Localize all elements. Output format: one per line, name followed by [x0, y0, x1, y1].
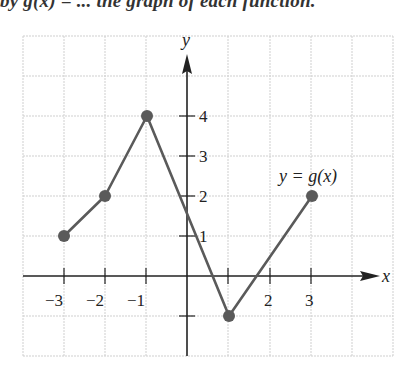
y-axis-arrow-icon — [182, 54, 192, 74]
point-m2-2 — [99, 190, 111, 202]
point-m3-1 — [58, 230, 70, 242]
x-tick-label: −3 — [45, 291, 63, 310]
function-graph: −3 −2 −1 2 3 1 2 3 4 x y y = g(x) — [0, 0, 414, 374]
point-1-m1 — [223, 310, 235, 322]
x-axis-label: x — [381, 266, 390, 286]
y-axis-label: y — [180, 30, 190, 50]
x-tick-label: −2 — [86, 291, 104, 310]
x-axis-arrow-icon — [360, 271, 380, 281]
y-tick-label: 2 — [199, 187, 208, 206]
point-m1-4 — [141, 110, 153, 122]
x-tick-label: 2 — [264, 291, 273, 310]
point-3-2 — [306, 190, 318, 202]
y-tick-label: 4 — [199, 107, 208, 126]
x-tick-label: −1 — [127, 291, 145, 310]
g-curve — [64, 116, 312, 316]
function-label: y = g(x) — [277, 166, 337, 187]
y-tick-label: 1 — [199, 227, 208, 246]
grid — [23, 36, 393, 356]
x-tick-label: 3 — [305, 291, 314, 310]
y-axis — [179, 54, 195, 356]
x-axis — [23, 268, 380, 284]
y-tick-label: 3 — [199, 147, 208, 166]
